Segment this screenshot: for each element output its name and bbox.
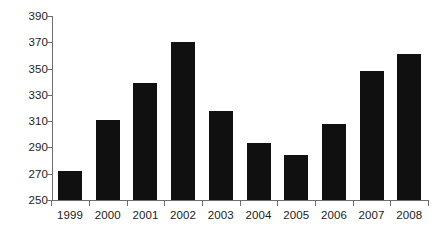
bar — [171, 42, 195, 200]
y-axis-tick-label: 270 — [8, 166, 48, 182]
bar — [247, 143, 271, 200]
y-axis-tick-mark — [47, 69, 52, 70]
x-axis-tick-mark — [390, 201, 391, 206]
y-axis-tick-label: 350 — [8, 61, 48, 77]
bar-chart: 390370350330310290270250 199920002001200… — [0, 0, 444, 229]
x-axis-tick-mark — [240, 201, 241, 206]
x-axis-tick-mark — [315, 201, 316, 206]
y-axis-tick-label: 390 — [8, 8, 48, 24]
bar — [133, 83, 157, 200]
y-axis-tick-label: 370 — [8, 34, 48, 50]
y-axis-tick-mark — [47, 121, 52, 122]
x-axis-tick-mark — [428, 201, 429, 206]
y-axis-tick-mark — [47, 16, 52, 17]
bar — [360, 71, 384, 200]
x-axis-tick-mark — [202, 201, 203, 206]
bar — [58, 171, 82, 200]
bar — [209, 111, 233, 200]
x-axis-tick-mark — [89, 201, 90, 206]
y-axis-tick-label: 310 — [8, 113, 48, 129]
x-axis-tick-label: 2008 — [386, 208, 432, 223]
bar — [96, 120, 120, 200]
y-axis-tick-label: 330 — [8, 87, 48, 103]
y-axis-tick-mark — [47, 42, 52, 43]
bar — [322, 124, 346, 200]
x-axis-tick-mark — [127, 201, 128, 206]
y-axis-tick-mark — [47, 95, 52, 96]
x-axis-tick-mark — [51, 201, 52, 206]
bar — [284, 155, 308, 200]
y-axis-tick-label: 290 — [8, 139, 48, 155]
y-axis-line — [52, 16, 53, 201]
x-axis-tick-mark — [353, 201, 354, 206]
y-axis-tick-mark — [47, 174, 52, 175]
x-axis-tick-mark — [277, 201, 278, 206]
x-axis-tick-mark — [164, 201, 165, 206]
y-axis-tick-mark — [47, 147, 52, 148]
bar — [397, 54, 421, 200]
y-axis-tick-label: 250 — [8, 192, 48, 208]
